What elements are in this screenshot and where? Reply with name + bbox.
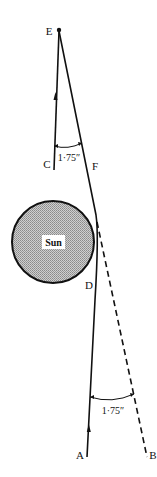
bottom-angle-arc: [90, 393, 134, 400]
apparent-ray-ec: [54, 31, 60, 170]
top-angle-arc: [54, 142, 82, 148]
label-d: D: [85, 279, 93, 291]
label-a: A: [76, 449, 84, 461]
sun: Sun: [12, 201, 94, 283]
label-c: C: [43, 158, 50, 170]
point-e-dot: [57, 28, 61, 32]
arrow-up-icon: [87, 424, 91, 432]
label-e: E: [46, 25, 53, 37]
undeflected-ray-b: [97, 222, 147, 457]
label-b: B: [149, 449, 156, 461]
angle-label-top: 1·75″: [58, 152, 81, 163]
label-f: F: [92, 160, 98, 172]
angle-label-bottom: 1·75″: [102, 405, 125, 416]
sun-label: Sun: [45, 237, 62, 248]
light-deflection-diagram: Sun E C F D A B 1·75″ 1·75″: [0, 0, 157, 477]
